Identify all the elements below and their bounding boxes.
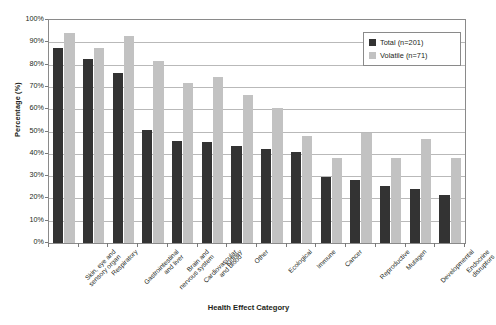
bar-volatile <box>213 77 223 243</box>
x-tick-mark <box>256 243 257 247</box>
chart-legend: Total (n=201)Volatile (n=71) <box>363 32 461 66</box>
bar-total <box>83 59 93 243</box>
bar-group <box>53 20 74 243</box>
legend-label: Volatile (n=71) <box>380 51 427 60</box>
bar-total <box>410 189 420 243</box>
bar-group <box>291 20 312 243</box>
x-category-label: Immune <box>315 248 337 270</box>
bar-volatile <box>153 61 163 243</box>
x-category-label: Ecological <box>287 248 313 274</box>
x-tick-mark <box>464 243 465 247</box>
bar-volatile <box>124 36 134 243</box>
x-axis-category-labels: Skin, eye andsensory organRespiratoryGas… <box>0 248 477 308</box>
bar-total <box>291 152 301 243</box>
x-tick-mark <box>78 243 79 247</box>
bar-total <box>439 195 449 243</box>
bar-total <box>231 146 241 243</box>
x-axis-title: Health Effect Category <box>0 303 477 312</box>
bar-total <box>202 142 212 243</box>
legend-swatch-total <box>369 39 376 46</box>
y-tick-label: 80% <box>30 60 44 68</box>
x-tick-mark <box>315 243 316 247</box>
x-tick-mark <box>137 243 138 247</box>
bar-volatile <box>302 136 312 243</box>
legend-item: Total (n=201) <box>369 36 456 49</box>
x-tick-mark <box>286 243 287 247</box>
bar-total <box>172 141 182 243</box>
bar-group <box>142 20 163 243</box>
x-tick-mark <box>197 243 198 247</box>
x-tick-mark <box>375 243 376 247</box>
bar-group <box>321 20 342 243</box>
legend-label: Total (n=201) <box>380 38 423 47</box>
bar-group <box>261 20 282 243</box>
x-tick-mark <box>345 243 346 247</box>
x-tick-mark <box>226 243 227 247</box>
legend-swatch-volatile <box>369 52 376 59</box>
bar-group <box>113 20 134 243</box>
x-tick-mark <box>167 243 168 247</box>
y-tick-label: 100% <box>26 15 44 23</box>
bar-volatile <box>332 158 342 243</box>
y-tick-label: 20% <box>30 193 44 201</box>
bar-volatile <box>64 33 74 244</box>
x-axis-title-text: Health Effect Category <box>208 303 289 312</box>
bar-group <box>231 20 252 243</box>
bar-volatile <box>451 158 461 243</box>
bar-volatile <box>243 95 253 243</box>
x-tick-mark <box>107 243 108 247</box>
bar-volatile <box>183 83 193 243</box>
x-category-label: Cancer <box>344 248 364 268</box>
y-tick-label: 70% <box>30 82 44 90</box>
x-tick-mark <box>434 243 435 247</box>
y-tick-label: 90% <box>30 37 44 45</box>
bar-total <box>321 177 331 243</box>
bar-total <box>350 180 360 243</box>
bar-volatile <box>94 48 104 243</box>
bar-volatile <box>391 158 401 243</box>
bar-volatile <box>272 108 282 243</box>
bar-total <box>380 186 390 243</box>
legend-item: Volatile (n=71) <box>369 49 456 62</box>
y-tick-label: 10% <box>30 216 44 224</box>
bar-total <box>53 48 63 243</box>
bar-volatile <box>421 139 431 243</box>
bar-group <box>172 20 193 243</box>
y-tick-label: 30% <box>30 171 44 179</box>
bar-total <box>261 149 271 243</box>
bar-group <box>83 20 104 243</box>
x-tick-mark <box>405 243 406 247</box>
y-tick-label: 40% <box>30 149 44 157</box>
y-tick-label: 0% <box>34 238 44 246</box>
x-tick-mark <box>48 243 49 247</box>
y-tick-label: 50% <box>30 127 44 135</box>
x-category-label: Other <box>253 248 270 265</box>
bar-group <box>202 20 223 243</box>
bar-total <box>142 130 152 243</box>
bar-total <box>113 73 123 243</box>
y-tick-label: 60% <box>30 104 44 112</box>
y-axis-tick-labels: 100%90%80%70%60%50%40%30%20%10%0% <box>16 14 48 243</box>
bar-volatile <box>361 133 371 243</box>
